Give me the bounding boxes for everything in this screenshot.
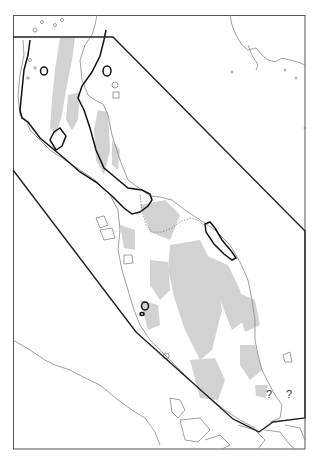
uncertain-marker-1: ? [266,389,272,400]
uncertain-marker-2: ? [286,389,292,400]
highland-shading [50,38,268,400]
